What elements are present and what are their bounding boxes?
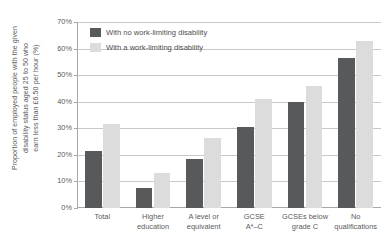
x-axis-label-line: qualifications [326, 222, 385, 232]
bar [338, 58, 355, 208]
bar [154, 173, 171, 208]
bar [356, 41, 373, 208]
y-axis-tick-label-40pct: 40% [38, 98, 72, 106]
legend-label-with-disability: With a work-limiting disability [106, 43, 203, 52]
y-axis-tick-label-60pct: 60% [38, 45, 72, 53]
y-axis-tick-label-50pct: 50% [38, 71, 72, 79]
y-axis-tick-label-70pct: 70% [38, 18, 72, 26]
y-axis-title-line-1: Proportion of employed people with the g… [10, 0, 21, 196]
x-axis-category-label: Noqualifications [326, 212, 385, 233]
y-axis-title-line-2: disability status aged 25 to 50 who [21, 0, 32, 196]
x-axis-category-labels: TotalHighereducationA level orequivalent… [77, 212, 381, 246]
legend-item-no-disability: With no work-limiting disability [90, 26, 240, 39]
bar-group [288, 22, 323, 208]
y-axis-tick-60pct [74, 49, 78, 50]
y-axis-tick-30pct [74, 128, 78, 129]
y-axis-tick-0pct [74, 208, 78, 209]
bar [103, 124, 120, 208]
y-axis-tick-label-20pct: 20% [38, 151, 72, 159]
bar-group [237, 22, 272, 208]
bar-group [338, 22, 373, 208]
y-axis-tick-40pct [74, 102, 78, 103]
x-axis-label-line: No [326, 212, 385, 222]
y-axis-tick-label-10pct: 10% [38, 177, 72, 185]
legend: With no work-limiting disability With a … [90, 26, 240, 56]
bar [237, 127, 254, 208]
legend-item-with-disability: With a work-limiting disability [90, 41, 240, 54]
legend-swatch-icon-no-disability [90, 28, 101, 37]
bar [306, 86, 323, 208]
y-axis-tick-50pct [74, 75, 78, 76]
legend-swatch-icon-with-disability [90, 43, 101, 52]
y-axis-tick-label-30pct: 30% [38, 124, 72, 132]
y-axis-tick-labels: 0%10%20%30%40%50%60%70% [38, 18, 72, 210]
y-axis-tick-10pct [74, 181, 78, 182]
bar [85, 151, 102, 208]
y-axis-tick-20pct [74, 155, 78, 156]
bar [136, 188, 153, 208]
y-axis-tick-70pct [74, 22, 78, 23]
bar [204, 138, 221, 208]
legend-label-no-disability: With no work-limiting disability [106, 28, 207, 37]
bar [288, 102, 305, 208]
bar-chart: Proportion of employed people with the g… [0, 0, 388, 249]
y-axis-tick-label-0pct: 0% [38, 204, 72, 212]
bar [186, 159, 203, 208]
bar [255, 99, 272, 208]
